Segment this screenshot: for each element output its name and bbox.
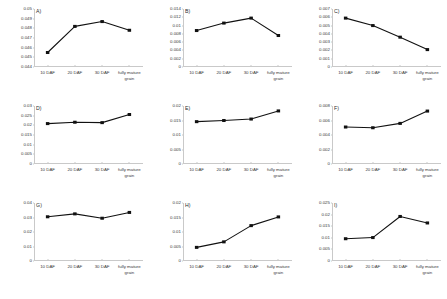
data-point-marker (73, 121, 76, 124)
panel-letter: G) (36, 202, 42, 208)
data-point-marker (249, 224, 252, 227)
y-axis-tick-label: 0.04 (23, 201, 32, 205)
chart-panel-i: I)0.0250.020.0150.010.005010 DAF20 DAF30… (298, 194, 447, 299)
panel-letter: I) (334, 202, 337, 208)
plot-area: 0.020.0150.010.005010 DAF20 DAF30 DAFful… (183, 203, 292, 261)
y-axis-tick-label: 0.01 (23, 244, 32, 248)
plot-area: 0.040.030.020.01010 DAF20 DAF30 DAFfully… (34, 203, 143, 261)
x-axis-tick-label: 30 DAF (238, 167, 264, 173)
y-axis-tick-label: 0.004 (319, 32, 330, 36)
data-point-marker (426, 48, 429, 51)
data-point-marker (277, 215, 280, 218)
y-axis-tick-label: 0.001 (319, 57, 330, 61)
data-point-marker (344, 17, 347, 20)
y-axis-tick-label: 0.025 (21, 113, 32, 117)
x-axis-tick-label: 30 DAF (238, 264, 264, 270)
plot-area: 0.0250.020.0150.010.005010 DAF20 DAF30 D… (332, 203, 441, 261)
data-point-marker (398, 215, 401, 218)
y-axis-tick-label: 0.05 (23, 7, 32, 11)
y-axis-tick-label: 0.015 (170, 118, 181, 122)
data-point-marker (195, 246, 198, 249)
y-axis-tick-label: 0.005 (319, 23, 330, 27)
y-axis-tick-label: 0.004 (319, 133, 330, 137)
data-point-marker (426, 110, 429, 113)
plot-area: 0.020.0150.010.005010 DAF20 DAF30 DAFful… (183, 106, 292, 164)
x-axis-tick-label: 20 DAF (360, 70, 386, 76)
y-axis-tick-label: 0.015 (170, 215, 181, 219)
y-axis-tick-label: 0.047 (21, 36, 32, 40)
y-axis-tick-label: 0.02 (172, 104, 181, 108)
y-axis-tick-label: 0.005 (170, 147, 181, 151)
panel-letter: H) (185, 202, 191, 208)
y-axis-tick-label: 0.006 (319, 118, 330, 122)
x-axis-tick-label: fully mature grain (414, 264, 440, 275)
data-point-marker (426, 221, 429, 224)
data-point-marker (277, 109, 280, 112)
data-point-marker (277, 34, 280, 37)
y-axis-tick-label: 0.025 (319, 201, 330, 205)
data-series (332, 106, 441, 164)
y-axis-tick-label: 0.014 (170, 7, 181, 11)
data-point-marker (371, 126, 374, 129)
x-axis-tick-label: fully mature grain (116, 70, 142, 81)
x-axis-tick-label: 30 DAF (387, 264, 413, 270)
data-point-marker (344, 237, 347, 240)
x-axis-tick-label: 10 DAF (184, 70, 210, 76)
y-axis-tick-label: 0.044 (21, 65, 32, 69)
y-axis-tick-label: 0.03 (23, 215, 32, 219)
y-axis-tick-label: 0.008 (170, 32, 181, 36)
data-point-marker (128, 211, 131, 214)
chart-panel-d: D)0.030.0250.020.0150.010.005010 DAF20 D… (0, 97, 149, 194)
data-point-marker (46, 215, 49, 218)
x-axis-tick-label: 10 DAF (35, 70, 61, 76)
y-axis-tick-label: 0.004 (170, 48, 181, 52)
x-axis-tick-label: fully mature grain (116, 167, 142, 178)
panel-letter: A) (36, 8, 41, 14)
x-axis-tick-label: 10 DAF (184, 167, 210, 173)
data-point-marker (222, 22, 225, 25)
y-axis-tick-label: 0.01 (172, 23, 181, 27)
chart-panel-c: C)0.0070.0060.0050.0040.0030.0020.001010… (298, 0, 447, 97)
data-point-marker (398, 36, 401, 39)
y-axis-tick-label: 0.007 (319, 7, 330, 11)
x-axis-tick-label: fully mature grain (265, 70, 291, 81)
x-axis-tick-label: 20 DAF (211, 70, 237, 76)
data-point-marker (222, 119, 225, 122)
y-axis-tick-label: 0.048 (21, 26, 32, 30)
x-axis-tick-label: 30 DAF (89, 264, 115, 270)
data-series (183, 106, 292, 164)
y-axis-tick-label: 0.002 (319, 147, 330, 151)
y-axis-tick-label: 0.002 (170, 57, 181, 61)
x-axis-tick-label: 30 DAF (89, 167, 115, 173)
data-series (332, 203, 441, 261)
chart-panel-f: F)0.0080.0060.0040.002010 DAF20 DAF30 DA… (298, 97, 447, 194)
series-line (346, 18, 428, 49)
y-axis-tick-label: 0.01 (321, 236, 330, 240)
y-axis-tick-label: 0.005 (21, 152, 32, 156)
x-axis-tick-label: 10 DAF (35, 264, 61, 270)
panel-letter: F) (334, 105, 339, 111)
data-point-marker (128, 113, 131, 116)
y-axis-tick-label: 0.005 (170, 244, 181, 248)
data-point-marker (128, 29, 131, 32)
chart-panel-b: B)0.0140.0120.010.0080.0060.0040.002010 … (149, 0, 298, 97)
y-axis-tick-label: 0.03 (23, 104, 32, 108)
y-axis-tick-label: 0.002 (319, 48, 330, 52)
data-point-marker (398, 122, 401, 125)
data-series (332, 9, 441, 67)
chart-panel-h: H)0.020.0150.010.005010 DAF20 DAF30 DAFf… (149, 194, 298, 299)
series-line (48, 115, 130, 124)
x-axis-tick-label: 30 DAF (89, 70, 115, 76)
data-point-marker (195, 29, 198, 32)
x-axis-tick-label: 10 DAF (333, 264, 359, 270)
plot-area: 0.0080.0060.0040.002010 DAF20 DAF30 DAFf… (332, 106, 441, 164)
x-axis-tick-label: fully mature grain (414, 70, 440, 81)
x-axis-tick-label: 10 DAF (333, 167, 359, 173)
x-axis-tick-label: fully mature grain (116, 264, 142, 275)
panel-letter: C) (334, 8, 340, 14)
data-series (34, 106, 143, 164)
plot-area: 0.0070.0060.0050.0040.0030.0020.001010 D… (332, 9, 441, 67)
x-axis-tick-label: 30 DAF (238, 70, 264, 76)
y-axis-tick-label: 0.01 (172, 133, 181, 137)
data-point-marker (100, 121, 103, 124)
